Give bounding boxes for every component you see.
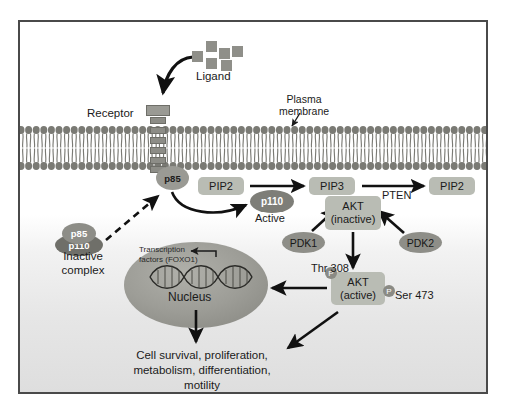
receptor-segment [150,157,166,164]
label-ser473: Ser 473 [395,289,434,302]
label-outcomes-line1: Cell survival, proliferation, [107,348,297,363]
node-p110-active-label: p110 [261,196,283,207]
node-pdk1-label: PDK1 [290,237,317,249]
receptor-segment [150,137,166,144]
label-pten: PTEN [382,189,411,202]
node-akt-inactive: AKT (inactive) [325,196,381,230]
node-pip3: PIP3 [309,177,355,195]
label-transcription-factors-line2: factors (FOXO1) [139,255,211,265]
node-pip2-right-label: PIP2 [440,180,464,193]
node-pip3-label: PIP3 [320,180,344,193]
node-pdk2: PDK2 [399,232,442,253]
label-active: Active [255,212,285,225]
ligand-square [192,51,203,62]
label-ligand: Ligand [196,70,231,84]
node-akt-inactive-line1: AKT [342,200,363,213]
label-inactive-complex-line2: complex [46,263,120,277]
receptor-segment [150,147,166,154]
node-pip2-right: PIP2 [429,177,475,195]
ligand-square [206,58,217,69]
node-p110-active: p110 [250,190,294,213]
node-akt-active: AKT (active) [331,272,385,305]
node-p85-complex-label: p85 [71,228,87,239]
label-outcomes-line2: metabolism, differentiation, [107,363,297,378]
label-receptor: Receptor [87,107,134,121]
ligand-square [206,41,217,52]
node-p85-membrane: p85 [156,166,189,190]
label-transcription-factors: Transcription factors (FOXO1) [139,245,211,265]
receptor-segment [150,117,166,124]
label-transcription-factors-line1: Transcription [139,245,211,255]
node-p85-inactive-complex: p85 [62,223,96,244]
node-pip2-left-label: PIP2 [209,180,233,193]
node-akt-active-line1: AKT [347,276,368,289]
ligand-square [232,46,243,57]
node-pdk2-label: PDK2 [407,237,434,249]
label-plasma-membrane: Plasma membrane [272,93,336,118]
label-inactive-complex: Inactive complex [46,249,120,278]
phosphate-badge-ser473: P [383,285,395,297]
label-nucleus: Nucleus [168,290,211,304]
receptor-shape [150,115,166,173]
node-pdk1: PDK1 [282,232,325,253]
label-outcomes: Cell survival, proliferation, metabolism… [107,348,297,394]
label-plasma-membrane-line1: Plasma [272,93,336,105]
node-p85-membrane-label: p85 [164,173,180,184]
receptor-segment [150,127,166,134]
node-pip2-left: PIP2 [198,177,244,195]
pathway-diagram: PIP2 PIP3 PIP2 AKT (inactive) AKT (activ… [0,0,508,411]
phosphate-badge-ser473-label: P [386,287,391,296]
ligand-square [219,48,230,59]
node-akt-inactive-line2: (inactive) [331,213,376,226]
receptor-extracellular-cap [146,105,170,116]
label-inactive-complex-line1: Inactive [46,249,120,263]
label-plasma-membrane-line2: membrane [272,105,336,117]
node-akt-active-line2: (active) [340,289,376,302]
label-outcomes-line3: motility [107,378,297,393]
label-thr308: Thr 308 [311,262,349,275]
